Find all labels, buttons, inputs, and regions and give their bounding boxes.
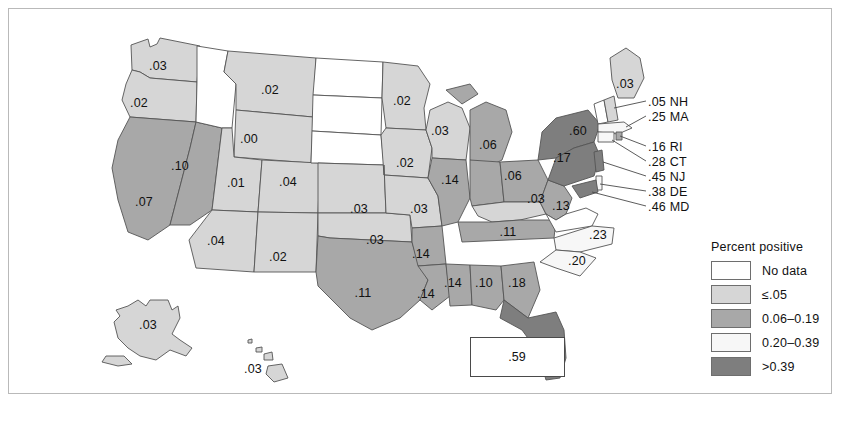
state-in[interactable] [470, 160, 504, 206]
legend-title: Percent positive [711, 240, 829, 254]
figure-root: .03 .02 .07 .10 .02 .00 .01 .04 .04 .02 … [0, 0, 841, 422]
state-nj[interactable] [594, 150, 604, 172]
legend-label-high: >0.39 [762, 360, 795, 374]
state-label-ca: .07 [135, 195, 153, 209]
state-label-wy: .00 [240, 132, 258, 146]
legend-swatch-low [711, 285, 751, 304]
callout-nj: .45 NJ [648, 170, 685, 184]
inset-value-label: .59 [508, 350, 525, 364]
state-label-mn: .02 [393, 94, 411, 108]
state-label-nv: .10 [171, 159, 189, 173]
state-label-ok: .03 [366, 233, 384, 247]
state-label-sc: .20 [568, 254, 586, 268]
legend-swatch-mid [711, 309, 751, 328]
state-label-oh: .17 [553, 151, 571, 165]
legend-label-low: ≤.05 [762, 288, 787, 302]
state-label-wi: .03 [431, 124, 449, 138]
state-label-mt: .02 [261, 83, 279, 97]
state-label-ny: .60 [569, 124, 587, 138]
state-label-tx: .11 [354, 286, 371, 300]
legend-item-mid[interactable]: 0.06–0.19 [711, 309, 829, 328]
state-label-ak: .03 [139, 318, 157, 332]
callout-ri: .16 RI [648, 140, 683, 154]
state-hi-2[interactable] [256, 347, 262, 352]
state-label-wv: .13 [552, 199, 570, 213]
state-label-me: .03 [616, 77, 634, 91]
legend-label-mid: 0.06–0.19 [762, 312, 819, 326]
state-label-ks: .03 [350, 202, 368, 216]
legend-label-no-data: No data [762, 264, 807, 278]
state-hi-4[interactable] [266, 364, 288, 382]
callout-ct: .28 CT [648, 155, 687, 169]
state-ct[interactable] [598, 132, 614, 142]
state-nd[interactable] [313, 58, 383, 98]
state-label-ar: .14 [412, 247, 430, 261]
legend-swatch-lite [711, 333, 751, 352]
state-label-ms: .14 [444, 276, 462, 290]
state-label-or: .02 [130, 96, 148, 110]
state-ak[interactable] [102, 300, 192, 366]
state-hi-3[interactable] [264, 352, 273, 360]
legend-item-low[interactable]: ≤.05 [711, 285, 829, 304]
legend-item-no-data[interactable]: No data [711, 261, 829, 280]
state-label-mo: .03 [410, 202, 428, 216]
state-ok[interactable] [318, 213, 412, 242]
state-label-az: .04 [207, 234, 225, 248]
state-label-hi: .03 [244, 362, 262, 376]
state-label-ia: .02 [396, 156, 414, 170]
state-hi[interactable] [248, 339, 252, 343]
state-label-co: .04 [279, 175, 297, 189]
state-label-nc: .23 [589, 228, 607, 242]
state-ne[interactable] [311, 131, 384, 165]
state-label-nm: .02 [269, 250, 287, 264]
state-label-tn: .11 [499, 225, 516, 239]
state-label-la: .14 [417, 287, 435, 301]
state-label-il: .14 [441, 173, 459, 187]
callout-nh: .05 NH [648, 95, 688, 109]
legend: Percent positive No data ≤.05 0.06–0.19 … [711, 240, 829, 381]
state-label-wa: .03 [149, 59, 167, 73]
state-label-in: .06 [504, 169, 522, 183]
state-label-ga: .18 [508, 276, 526, 290]
state-sd[interactable] [312, 95, 382, 135]
legend-label-lite: 0.20–0.39 [762, 336, 819, 350]
legend-swatch-high [711, 357, 751, 376]
legend-swatch-no-data [711, 261, 751, 280]
state-label-al: .10 [475, 276, 493, 290]
state-ia[interactable] [381, 128, 432, 178]
callout-de: .38 DE [648, 185, 687, 199]
legend-item-lite[interactable]: 0.20–0.39 [711, 333, 829, 352]
legend-item-high[interactable]: >0.39 [711, 357, 829, 376]
callout-md: .46 MD [648, 200, 690, 214]
state-label-mi: .06 [479, 138, 497, 152]
callout-ma: .25 MA [648, 110, 689, 124]
state-label-ky: .03 [527, 192, 545, 206]
state-md[interactable] [572, 180, 598, 198]
state-label-ut: .01 [227, 176, 245, 190]
